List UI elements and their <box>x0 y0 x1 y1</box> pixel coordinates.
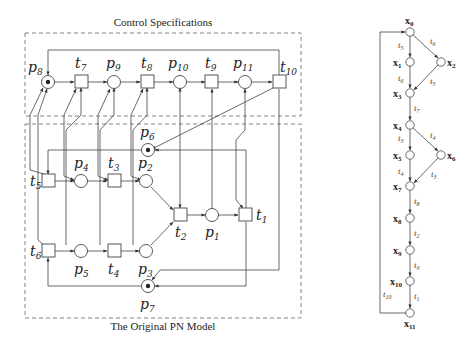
svg-text:x10: x10 <box>390 276 403 289</box>
svg-text:x9: x9 <box>393 245 402 258</box>
svg-text:t9: t9 <box>414 260 420 271</box>
original-pn-model-caption: The Original PN Model <box>111 320 216 332</box>
svg-text:t8: t8 <box>141 55 153 73</box>
transition-t8 <box>141 75 154 88</box>
svg-text:t5: t5 <box>30 173 42 191</box>
svg-text:t2: t2 <box>414 228 420 239</box>
place-p11 <box>239 76 252 89</box>
svg-text:x11: x11 <box>404 318 416 331</box>
svg-text:t3: t3 <box>398 133 404 144</box>
place-p3 <box>140 245 153 258</box>
place-p9 <box>108 76 121 89</box>
svg-text:t6: t6 <box>30 243 42 261</box>
svg-text:t5: t5 <box>430 76 436 87</box>
svg-text:t4: t4 <box>108 261 120 279</box>
svg-text:x1: x1 <box>393 57 402 70</box>
reachability-edges <box>380 32 438 313</box>
transition-t10 <box>273 75 286 88</box>
svg-text:p6: p6 <box>140 124 155 142</box>
svg-text:t6: t6 <box>430 36 436 47</box>
place-p4 <box>75 175 88 188</box>
svg-text:p10: p10 <box>168 55 189 73</box>
svg-text:p11: p11 <box>233 55 253 73</box>
svg-text:t3: t3 <box>431 169 437 180</box>
transition-t3 <box>108 174 121 187</box>
transition-t7 <box>75 75 88 88</box>
svg-text:t1: t1 <box>256 207 267 225</box>
svg-text:p8: p8 <box>28 59 43 77</box>
place-p5 <box>75 245 88 258</box>
svg-text:p9: p9 <box>106 55 121 73</box>
svg-text:t1: t1 <box>414 291 420 302</box>
svg-text:p5: p5 <box>74 261 89 279</box>
svg-text:x7: x7 <box>393 181 402 194</box>
svg-text:x3: x3 <box>393 88 402 101</box>
svg-text:t10: t10 <box>280 59 297 77</box>
svg-text:x8: x8 <box>393 213 402 226</box>
tokens <box>46 80 150 288</box>
node-labels: p8 t7 p9 t8 p10 t9 p11 t10 p6 p4 t3 p2 t… <box>28 55 297 314</box>
svg-text:t10: t10 <box>383 289 392 300</box>
transition-t9 <box>205 75 218 88</box>
token-p8 <box>46 80 50 84</box>
token-p7 <box>146 284 150 288</box>
svg-text:t4: t4 <box>398 166 404 177</box>
svg-text:x4: x4 <box>393 120 402 133</box>
svg-text:t7: t7 <box>75 55 87 73</box>
svg-text:x5: x5 <box>393 150 402 163</box>
svg-text:t6: t6 <box>398 73 404 84</box>
svg-text:t5: t5 <box>398 40 404 51</box>
transition-t5 <box>42 174 55 187</box>
svg-text:p7: p7 <box>140 296 155 314</box>
svg-text:x2: x2 <box>447 57 456 70</box>
transition-t1 <box>239 208 252 221</box>
svg-text:p4: p4 <box>74 155 89 173</box>
control-spec-box <box>25 33 301 116</box>
transition-t4 <box>108 244 121 257</box>
transition-t2 <box>174 208 187 221</box>
svg-text:t9: t9 <box>205 55 217 73</box>
svg-text:x0: x0 <box>405 15 414 28</box>
svg-text:p3: p3 <box>138 261 153 279</box>
place-p2 <box>140 175 153 188</box>
transition-t6 <box>42 244 55 257</box>
svg-text:t3: t3 <box>108 155 120 173</box>
petri-net-figure: Control Specifications The Original PN M… <box>0 0 475 341</box>
token-p6 <box>146 148 150 152</box>
place-p1 <box>206 209 219 222</box>
svg-text:p2: p2 <box>138 155 153 173</box>
svg-text:t2: t2 <box>175 224 187 242</box>
control-specifications-caption: Control Specifications <box>114 16 213 28</box>
svg-text:t7: t7 <box>414 103 421 114</box>
svg-text:p1: p1 <box>205 224 220 242</box>
svg-text:x6: x6 <box>447 150 456 163</box>
svg-text:t4: t4 <box>430 130 436 141</box>
reachability-states <box>406 28 445 317</box>
places <box>42 76 252 293</box>
place-p10 <box>174 76 187 89</box>
svg-text:t8: t8 <box>414 196 420 207</box>
